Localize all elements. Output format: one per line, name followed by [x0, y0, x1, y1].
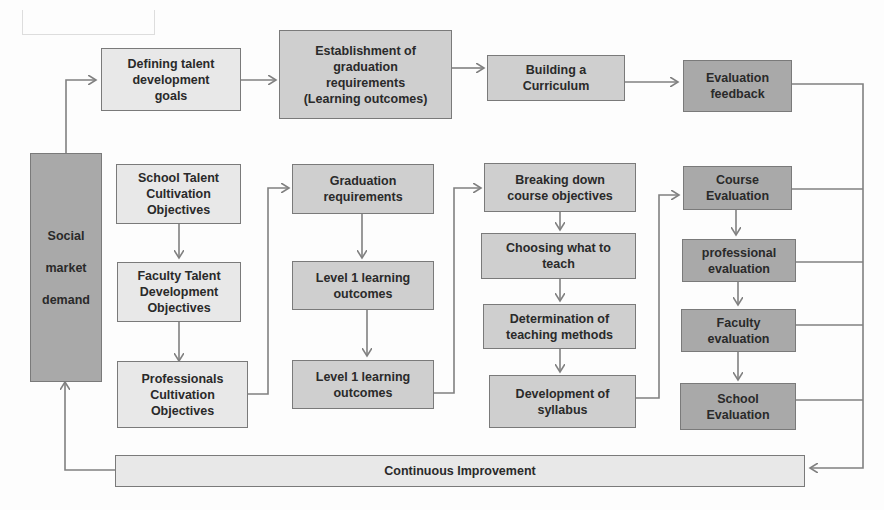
- box-faculty-talent-objectives: Faculty Talent Development Objectives: [117, 262, 241, 322]
- box-breaking-down-objectives: Breaking down course objectives: [484, 163, 636, 212]
- box-level1-outcomes-a: Level 1 learning outcomes: [292, 261, 434, 310]
- box-professional-evaluation: professional evaluation: [682, 239, 796, 282]
- box-evaluation-feedback: Evaluation feedback: [683, 60, 792, 112]
- box-professionals-objectives: Professionals Cultivation Objectives: [117, 361, 248, 428]
- box-teaching-methods: Determination of teaching methods: [483, 304, 636, 349]
- box-school-talent-objectives: School Talent Cultivation Objectives: [116, 164, 241, 224]
- box-social-market-demand: Social market demand: [30, 153, 102, 382]
- box-choosing-what-to-teach: Choosing what to teach: [481, 233, 636, 279]
- talent-development-flow-diagram: Defining talent development goals Establ…: [0, 0, 884, 510]
- box-school-evaluation: School Evaluation: [680, 383, 796, 430]
- box-defining-talent-goals: Defining talent development goals: [101, 48, 241, 111]
- box-development-syllabus: Development of syllabus: [489, 375, 636, 428]
- box-graduation-requirements: Graduation requirements: [292, 164, 434, 214]
- box-continuous-improvement: Continuous Improvement: [115, 455, 805, 487]
- box-faculty-evaluation: Faculty evaluation: [681, 309, 796, 352]
- box-course-evaluation: Course Evaluation: [683, 166, 792, 210]
- box-establishment-graduation-requirements: Establishment of graduation requirements…: [279, 30, 452, 119]
- box-level1-outcomes-b: Level 1 learning outcomes: [292, 360, 434, 409]
- box-building-curriculum: Building a Curriculum: [487, 55, 625, 101]
